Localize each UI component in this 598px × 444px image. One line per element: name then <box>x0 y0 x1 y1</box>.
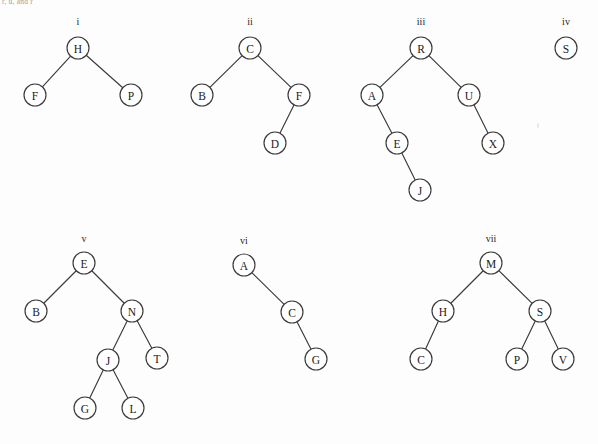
tree-v: EBNJTGLv <box>25 233 168 420</box>
tree-edge <box>113 370 128 398</box>
tree-node-label: M <box>486 258 496 270</box>
tree-edge <box>402 153 415 180</box>
tree-iii: RAUEXJiii <box>361 16 504 202</box>
tree-node-label: P <box>514 354 520 366</box>
tree-edge <box>451 271 483 303</box>
tree-node-label: A <box>240 260 249 272</box>
tree-i: HFPi <box>24 16 142 107</box>
tree-node-label: G <box>312 354 320 366</box>
tree-node-label: X <box>489 138 498 150</box>
tree-node-label: B <box>198 90 206 102</box>
tree-edge <box>429 56 461 88</box>
tree-node-label: N <box>128 306 137 318</box>
tree-node-label: S <box>537 306 543 318</box>
tree-node-label: L <box>129 403 136 415</box>
tree-edge <box>210 56 242 88</box>
tree-node-label: J <box>106 355 111 367</box>
tree-edge <box>280 105 294 133</box>
tree-node-label: S <box>563 43 569 55</box>
tree-node-label: C <box>417 354 425 366</box>
tree-edge <box>377 105 392 133</box>
tree-iv: Siv <box>555 16 577 60</box>
tree-caption-vi: vi <box>240 235 248 246</box>
tree-caption-ii: ii <box>247 16 253 27</box>
tree-vii: MHSCPVvii <box>410 233 574 371</box>
tree-node-label: D <box>271 138 279 150</box>
tree-ii: CBFDii <box>191 16 310 155</box>
tree-node-label: E <box>80 258 87 270</box>
tree-caption-v: v <box>82 233 87 244</box>
tree-edge <box>499 271 532 304</box>
tree-edge <box>380 56 413 88</box>
tree-node-label: H <box>74 43 82 55</box>
tree-edge <box>474 105 488 133</box>
tree-edge <box>545 321 559 349</box>
tree-node-label: V <box>559 354 568 366</box>
tree-edge <box>258 56 291 88</box>
tree-edge <box>92 271 124 303</box>
tree-edge <box>426 321 439 349</box>
tree-edge <box>522 321 536 349</box>
tree-vi: ACGvi <box>233 235 327 371</box>
tree-node-label: F <box>32 90 38 102</box>
tree-node-label: P <box>128 90 134 102</box>
tree-edge <box>44 271 76 303</box>
tree-node-label: B <box>32 306 40 318</box>
tree-caption-iv: iv <box>562 16 570 27</box>
tree-edge <box>252 273 284 305</box>
tree-edge <box>113 321 127 350</box>
tree-caption-i: i <box>77 16 80 27</box>
tree-edge <box>86 55 123 87</box>
tree-node-label: R <box>417 43 425 55</box>
scan-artifact-speck <box>537 123 539 128</box>
tree-node-label: E <box>393 138 400 150</box>
tree-caption-vii: vii <box>486 233 497 244</box>
tree-node-label: C <box>288 307 296 319</box>
tree-node-label: H <box>439 306 447 318</box>
tree-node-label: J <box>418 185 423 197</box>
tree-node-label: F <box>296 90 302 102</box>
tree-node-label: A <box>368 90 377 102</box>
tree-node-label: G <box>81 403 89 415</box>
tree-caption-iii: iii <box>417 16 426 27</box>
tree-edge <box>90 370 104 398</box>
tree-edge <box>137 321 152 349</box>
tree-edge <box>297 322 311 349</box>
tree-edge <box>42 56 70 87</box>
tree-node-label: U <box>465 90 474 102</box>
tree-node-label: C <box>246 43 254 55</box>
tree-node-label: T <box>153 353 160 365</box>
binary-tree-figure: HFPiCBFDiiRAUEXJiiiSivEBNJTGLvACGviMHSCP… <box>0 0 598 444</box>
